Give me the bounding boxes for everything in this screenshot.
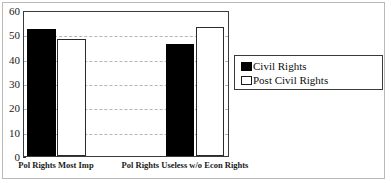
y-tick-label-40: 40 xyxy=(0,54,20,65)
bar-pol-rights-most-imp-post-civil-rights xyxy=(57,39,86,156)
y-tick-label-60: 60 xyxy=(0,6,20,17)
x-axis-label-group-1: Pol Rights Most Imp xyxy=(0,160,112,170)
y-tick-label-10: 10 xyxy=(0,127,20,138)
legend-label-civil-rights: Civil Rights xyxy=(253,60,307,72)
y-tick-label-30: 30 xyxy=(0,79,20,90)
legend-swatch-filled-square-icon xyxy=(241,62,252,71)
legend-swatch-hollow-square-icon xyxy=(241,76,252,85)
y-tick-label-50: 50 xyxy=(0,30,20,41)
plot-area xyxy=(23,11,229,157)
y-tick-mark-0 xyxy=(23,157,26,158)
y-axis-tick-labels: 0 10 20 30 40 50 60 xyxy=(0,11,20,157)
bar-chart-figure: 0 10 20 30 40 50 60 Pol Rights Most Imp … xyxy=(0,0,391,183)
legend-item-post-civil-rights: Post Civil Rights xyxy=(241,73,382,87)
x-axis-label-group-2: Pol Rights Useless w/o Econ Rights xyxy=(110,160,260,170)
chart-legend: Civil Rights Post Civil Rights xyxy=(234,55,383,90)
legend-label-post-civil-rights: Post Civil Rights xyxy=(253,74,328,86)
bar-pol-rights-useless-civil-rights xyxy=(166,44,194,156)
y-tick-label-20: 20 xyxy=(0,103,20,114)
bar-pol-rights-useless-post-civil-rights xyxy=(196,27,224,156)
legend-item-civil-rights: Civil Rights xyxy=(241,59,382,73)
bar-pol-rights-most-imp-civil-rights xyxy=(27,29,56,156)
